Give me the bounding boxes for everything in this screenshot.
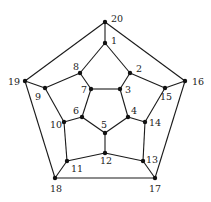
vertex-1 [103, 41, 107, 45]
vertex-label-20: 20 [111, 13, 123, 24]
edge-1-2 [105, 43, 130, 73]
vertex-label-13: 13 [146, 154, 158, 165]
vertex-label-8: 8 [73, 61, 79, 72]
edge-11-10 [64, 122, 67, 161]
vertex-label-16: 16 [192, 76, 204, 87]
vertex-label-4: 4 [131, 105, 137, 116]
vertex-label-10: 10 [50, 119, 62, 130]
vertex-7 [89, 87, 93, 91]
vertex-20 [103, 20, 107, 24]
edge-2-15 [130, 73, 165, 88]
edge-15-16 [165, 81, 185, 88]
vertex-label-17: 17 [149, 183, 161, 194]
vertex-9 [43, 86, 47, 90]
edge-9-19 [25, 81, 45, 88]
vertex-15 [163, 86, 167, 90]
vertex-label-12: 12 [100, 155, 112, 166]
vertex-label-7: 7 [81, 84, 87, 95]
vertex-5 [103, 131, 107, 135]
vertex-18 [53, 176, 57, 180]
vertex-label-6: 6 [73, 105, 79, 116]
vertex-11 [65, 159, 69, 163]
edge-20-16 [105, 22, 185, 81]
edge-4-14 [128, 117, 145, 122]
vertex-10 [62, 120, 66, 124]
edge-6-10 [64, 117, 82, 122]
vertex-label-19: 19 [8, 76, 20, 87]
edge-9-10 [45, 88, 64, 122]
edge-1-8 [80, 43, 105, 73]
dodecahedron-graph: 1234567891011121314151617181920 [0, 0, 211, 202]
vertex-2 [128, 71, 132, 75]
edge-14-13 [143, 122, 145, 161]
edge-20-19 [25, 22, 105, 81]
vertex-label-5: 5 [101, 119, 107, 130]
edge-11-18 [55, 161, 67, 178]
vertex-label-14: 14 [149, 117, 161, 128]
edge-8-9 [45, 73, 80, 88]
vertex-4 [126, 115, 130, 119]
vertex-13 [141, 159, 145, 163]
vertex-14 [143, 120, 147, 124]
vertex-label-11: 11 [71, 163, 83, 174]
vertex-label-9: 9 [35, 91, 41, 102]
label-layer: 1234567891011121314151617181920 [8, 13, 204, 194]
vertex-17 [153, 176, 157, 180]
vertex-6 [80, 115, 84, 119]
vertex-label-15: 15 [160, 91, 172, 102]
vertex-16 [183, 79, 187, 83]
vertex-label-18: 18 [50, 183, 62, 194]
vertex-label-2: 2 [136, 63, 142, 74]
vertex-3 [118, 87, 122, 91]
vertex-19 [23, 79, 27, 83]
vertex-label-1: 1 [111, 35, 117, 46]
edge-5-4 [105, 117, 128, 133]
vertex-label-3: 3 [125, 84, 131, 95]
